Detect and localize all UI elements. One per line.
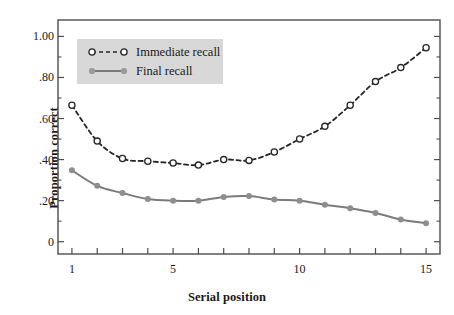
data-point [246,193,252,199]
data-point [69,102,75,108]
data-point [94,138,100,144]
data-point [322,202,328,208]
data-point [372,210,378,216]
data-point [271,149,277,155]
data-point [221,194,227,200]
data-point [221,156,227,162]
data-point [195,162,201,168]
axis-frame [58,20,440,254]
data-point [398,65,404,71]
data-point [120,190,126,196]
data-point [170,198,176,204]
data-point [271,197,277,203]
data-point [296,136,302,142]
series-line-0 [72,48,426,166]
serial-position-chart: Proportion correct Serial position 0.20.… [0,0,454,315]
data-point [145,158,151,164]
data-point [398,217,404,223]
data-point [94,183,100,189]
data-point [69,167,75,173]
data-point [423,45,429,51]
data-point [423,220,429,226]
data-point [347,205,353,211]
data-point [347,102,353,108]
data-point [195,198,201,204]
plot-area [0,0,454,315]
data-point [170,160,176,166]
data-point [297,198,303,204]
data-point [119,155,125,161]
data-point [145,196,151,202]
data-point [322,123,328,129]
data-point [246,157,252,163]
data-point [372,78,378,84]
